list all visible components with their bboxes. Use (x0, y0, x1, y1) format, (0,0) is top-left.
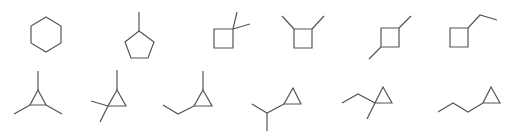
molecule-1-2-dimethylcyclobutane (282, 16, 324, 48)
cyclobutane-ring (294, 29, 312, 48)
cyclobutane-ring (450, 28, 468, 47)
methyl-bond (369, 47, 381, 59)
cyclopropane-ring (483, 87, 500, 103)
methyl-bond (399, 16, 411, 28)
cyclobutane-ring (214, 29, 233, 48)
methyl-bond (46, 105, 62, 114)
molecule-1-ethyl-1-methylcyclopropane (342, 87, 392, 119)
molecule-methylcyclopentane (125, 12, 154, 58)
methyl-bond (282, 16, 294, 29)
cyclohexane-ring (31, 17, 61, 52)
methyl-bond (100, 106, 108, 122)
methyl-bond (233, 12, 237, 29)
molecule-1-ethyl-2-methylcyclopropane (163, 71, 212, 114)
molecule-isopropylcyclopropane (252, 88, 301, 131)
ethyl-chain (163, 105, 194, 114)
cyclopropane-ring (194, 90, 212, 106)
ethyl-chain (342, 94, 375, 103)
cyclopropane-ring (375, 87, 392, 103)
methyl-bond (312, 16, 324, 29)
isopropyl-chain (252, 104, 284, 113)
molecule-1-2-3-trimethylcyclopropane (14, 71, 62, 114)
molecule-1-1-2-trimethylcyclopropane (91, 70, 126, 122)
molecule-cyclohexane (31, 17, 61, 52)
methyl-bond (233, 24, 250, 29)
cyclopropane-ring (108, 90, 126, 106)
methyl-bond (14, 105, 30, 114)
cyclobutane-ring (381, 28, 399, 47)
molecule-ethylcyclobutane (450, 15, 497, 47)
structure-figure: C6H12 cycloalkane isomers (skeletal form… (0, 0, 514, 134)
molecule-1-1-dimethylcyclobutane (214, 12, 250, 48)
propyl-chain (438, 103, 483, 112)
methyl-bond (367, 103, 375, 119)
molecule-1-3-dimethylcyclobutane (369, 16, 411, 59)
cyclopropane-ring (284, 88, 301, 104)
structures-svg (0, 0, 514, 134)
cyclopentane-ring (125, 31, 154, 58)
methyl-bond (91, 101, 108, 106)
molecule-propylcyclopropane (438, 87, 500, 112)
cyclopropane-ring (30, 90, 46, 105)
ethyl-chain (468, 15, 497, 28)
